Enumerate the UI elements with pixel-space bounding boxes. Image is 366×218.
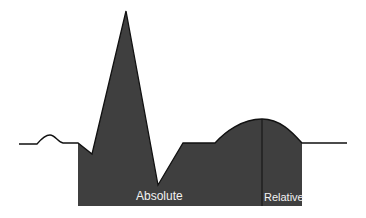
refractory-region [78,11,302,206]
ecg-diagram: Absolute Relative [0,0,366,218]
relative-label: Relative [264,191,304,203]
absolute-label: Absolute [136,189,183,203]
